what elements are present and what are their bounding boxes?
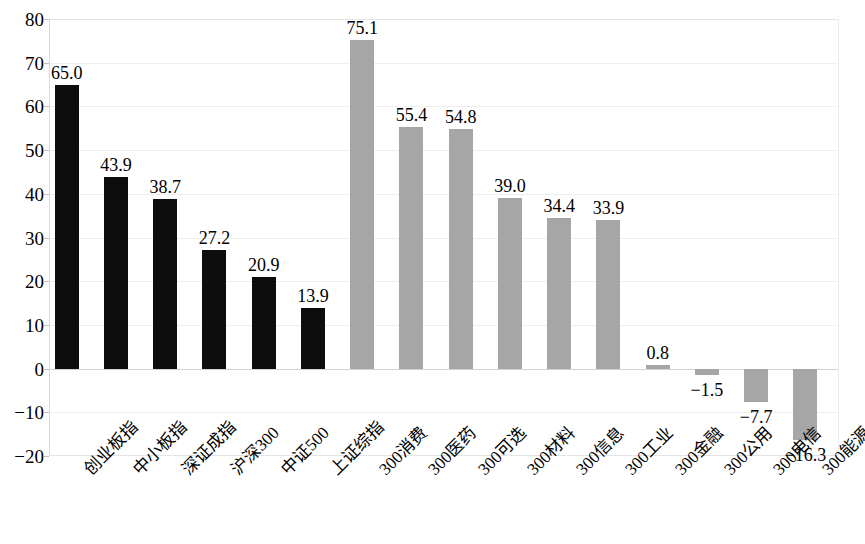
y-tick-mark [43, 325, 49, 326]
y-tick-mark [43, 106, 49, 107]
x-category-label: 300公用 [721, 466, 733, 478]
y-tick-mark [43, 238, 49, 239]
y-tick-mark [43, 456, 49, 457]
bar-chart: 80706050403020100−10−20 65.043.938.727.2… [0, 0, 865, 544]
y-tick-mark [43, 412, 49, 413]
y-tick-mark [43, 150, 49, 151]
x-category-label: 300电信 [770, 466, 782, 478]
y-tick-mark [43, 281, 49, 282]
x-category-label: 沪深300 [228, 466, 240, 478]
x-category-label: 300医药 [425, 466, 437, 478]
x-axis: 创业板指中小板指深证成指沪深300中证500上证综指300消费300医药300可… [0, 0, 865, 544]
y-tick-mark [43, 194, 49, 195]
x-category-label: 300能源 [819, 466, 831, 478]
y-tick-mark [43, 19, 49, 20]
x-category-label: 300材料 [524, 466, 536, 478]
x-category-label: 300可选 [475, 466, 487, 478]
x-category-label: 中小板指 [130, 466, 142, 478]
y-tick-mark [43, 369, 49, 370]
x-category-label: 300工业 [622, 466, 634, 478]
x-category-label: 300消费 [376, 466, 388, 478]
x-category-label: 300信息 [573, 466, 585, 478]
x-category-label: 创业板指 [81, 466, 93, 478]
x-category-label: 300金融 [672, 466, 684, 478]
y-tick-mark [43, 63, 49, 64]
x-category-label: 中证500 [278, 466, 290, 478]
x-category-label: 上证综指 [327, 466, 339, 478]
x-category-label: 深证成指 [179, 466, 191, 478]
